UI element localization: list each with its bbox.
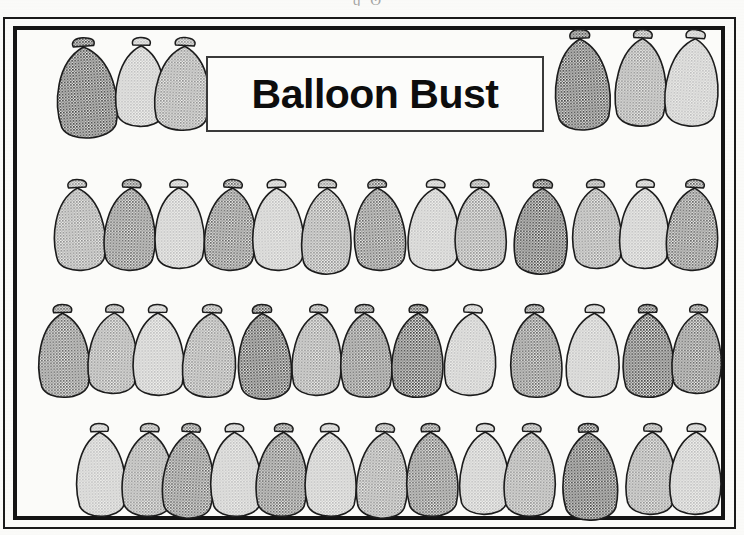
balloon xyxy=(401,423,462,521)
balloon-knot xyxy=(686,179,705,188)
balloon xyxy=(661,179,724,276)
balloon xyxy=(388,305,448,402)
balloon xyxy=(500,423,561,521)
balloon-knot xyxy=(132,37,150,45)
balloon-body xyxy=(669,432,721,515)
balloon xyxy=(451,180,511,275)
balloon-body xyxy=(622,313,674,398)
balloon-body xyxy=(37,312,91,398)
balloon xyxy=(562,304,625,402)
balloon-body xyxy=(503,431,557,517)
balloon-knot xyxy=(586,179,604,187)
balloon-knot xyxy=(522,423,541,432)
balloon-knot xyxy=(634,29,653,38)
balloon-knot xyxy=(225,423,244,432)
balloon-body xyxy=(671,312,723,394)
balloon-knot xyxy=(90,423,108,432)
balloon xyxy=(668,304,727,398)
balloon-body xyxy=(405,431,459,517)
balloon-knot xyxy=(376,423,395,432)
balloon xyxy=(439,304,502,401)
scanned-page: ɡ ʘ ҆ Balloon Bust xyxy=(0,0,744,535)
balloon-knot xyxy=(122,179,141,188)
balloon-knot xyxy=(53,304,72,313)
balloon-knot xyxy=(470,179,489,187)
balloon-knot xyxy=(585,304,605,313)
balloon-knot xyxy=(274,423,293,432)
balloon-knot xyxy=(175,37,195,46)
balloon-body xyxy=(443,312,498,397)
balloon-knot xyxy=(267,179,286,188)
balloon xyxy=(666,424,726,519)
balloon xyxy=(659,28,726,132)
balloon-body xyxy=(553,38,612,132)
balloon-body xyxy=(103,187,157,271)
balloon xyxy=(548,28,615,135)
balloon-knot xyxy=(690,304,708,312)
balloon-knot xyxy=(638,304,657,312)
balloon-body xyxy=(251,187,305,271)
balloon-knot xyxy=(68,179,87,188)
balloon-body xyxy=(153,45,212,132)
balloon-knot xyxy=(533,179,553,188)
balloon-body xyxy=(54,45,120,140)
balloon-knot xyxy=(182,423,201,432)
balloon-body xyxy=(513,187,569,275)
balloon xyxy=(510,179,573,279)
balloon-knot xyxy=(310,304,328,313)
balloon-body xyxy=(663,37,722,128)
balloon-knot xyxy=(421,423,440,432)
balloon-knot xyxy=(318,179,336,188)
balloon-knot xyxy=(148,304,167,312)
balloon xyxy=(505,304,566,402)
balloon-body xyxy=(391,313,443,398)
balloon-knot xyxy=(72,37,94,47)
balloon-knot xyxy=(464,304,483,313)
balloon-knot xyxy=(476,423,494,431)
balloon-body xyxy=(352,187,407,272)
balloon-knot xyxy=(368,179,387,188)
balloon-knot xyxy=(224,179,243,188)
title-plate: Balloon Bust xyxy=(206,56,544,132)
balloon-body xyxy=(132,313,184,396)
page-title: Balloon Bust xyxy=(252,71,499,118)
balloon-body xyxy=(509,312,563,398)
balloon-knot xyxy=(686,29,706,39)
balloon-knot xyxy=(570,29,590,39)
balloon-knot xyxy=(252,304,272,313)
balloon-knot xyxy=(409,304,428,312)
balloon-knot xyxy=(525,304,544,313)
balloon-knot xyxy=(644,423,662,432)
balloon-body xyxy=(339,312,393,398)
balloon-knot xyxy=(140,423,159,432)
balloon-body xyxy=(52,187,107,272)
scan-artifact-text: ɡ ʘ ҆ xyxy=(0,0,744,6)
balloon-knot xyxy=(106,304,124,312)
balloon-knot xyxy=(202,304,222,313)
balloon-body xyxy=(565,312,621,398)
balloon-knot xyxy=(320,423,339,431)
balloon-knot xyxy=(687,423,706,431)
balloon-body xyxy=(236,312,293,400)
balloon xyxy=(557,423,622,525)
balloon-body xyxy=(561,432,618,521)
balloon-knot xyxy=(578,423,598,432)
balloon-body xyxy=(181,312,238,399)
balloon-knot xyxy=(170,179,188,187)
balloon xyxy=(298,180,356,279)
balloon-knot xyxy=(355,304,374,313)
balloon-body xyxy=(154,187,205,268)
balloon-body xyxy=(304,432,356,517)
balloon-knot xyxy=(636,179,654,187)
balloon-body xyxy=(301,188,352,275)
balloon-body xyxy=(454,188,506,271)
balloon-body xyxy=(665,187,720,272)
balloon-knot xyxy=(426,179,445,188)
balloon xyxy=(348,179,411,276)
